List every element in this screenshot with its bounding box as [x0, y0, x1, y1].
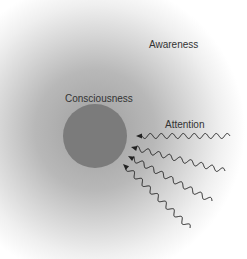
attention-arrow-line — [141, 134, 230, 139]
attention-label: Attention — [165, 119, 204, 130]
arrowhead-icon — [128, 156, 134, 161]
arrowhead-icon — [123, 164, 129, 170]
attention-arrow-line — [136, 146, 225, 171]
attention-arrow-line — [126, 168, 190, 228]
attention-arrows — [123, 134, 230, 229]
consciousness-circle — [63, 104, 127, 168]
awareness-label: Awareness — [149, 39, 198, 50]
arrowhead-icon — [136, 134, 142, 139]
arrowhead-icon — [131, 146, 137, 151]
awareness-diagram: Awareness Consciousness Attention — [0, 0, 247, 259]
consciousness-label: Consciousness — [65, 93, 133, 104]
diagram-canvas — [0, 0, 247, 259]
